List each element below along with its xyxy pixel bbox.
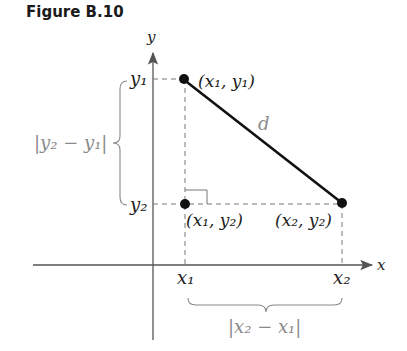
tick-label-y2: y₂	[129, 194, 147, 215]
vertical-brace-label: |y₂ − y₁|	[34, 132, 107, 154]
distance-segment	[183, 79, 342, 203]
segment-label-d: d	[258, 113, 270, 134]
point-x1-y1	[179, 74, 189, 84]
tick-label-x2: x₂	[333, 267, 350, 288]
dashed-guides	[153, 79, 342, 265]
point-label-x2-y2: (x₂, y₂)	[275, 210, 332, 230]
tick-label-y1: y₁	[129, 68, 147, 89]
distance-diagram: y x y₁ y₂ x₁ x₂ (x₁, y₁) (x₁, y₂) (x₂, y…	[0, 0, 407, 351]
point-x2-y2	[337, 198, 347, 208]
vertical-brace	[113, 81, 127, 205]
point-label-x1-y1: (x₁, y₁)	[198, 71, 255, 91]
point-label-x1-y2: (x₁, y₂)	[186, 210, 243, 230]
x-axis-label: x	[377, 256, 386, 274]
horizontal-brace	[188, 298, 342, 312]
y-axis-label: y	[146, 28, 156, 46]
tick-label-x1: x₁	[177, 267, 194, 288]
point-x1-y2	[180, 199, 190, 209]
horizontal-brace-label: |x₂ − x₁|	[228, 316, 301, 338]
